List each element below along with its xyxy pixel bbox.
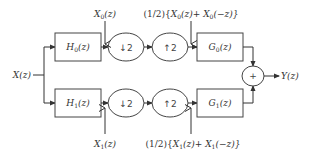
top-downsampler-label: ↓2 (119, 43, 132, 53)
g0-label: G0(z) (209, 42, 232, 53)
top-upsampler-label: ↑2 (163, 43, 176, 53)
x0-folded-label: (1/2){X0(z)+ X0(−z)} (144, 9, 239, 20)
x1-label: X1(z) (93, 139, 117, 150)
filter-bank-diagram: + ↓2 ↑2 ↓2 ↑2 H0(z) G0(z) H1(z) G1(z) X(… (0, 0, 316, 162)
output-label: Y(z) (281, 71, 299, 81)
input-label: X(z) (12, 70, 32, 80)
input-wires (33, 47, 55, 103)
h1-label: H1(z) (65, 98, 90, 109)
x1-folded-label: (1/2){X1(z)+ X1(−z)} (146, 139, 241, 150)
summer-label: + (249, 71, 257, 81)
bottom-upsampler-label: ↑2 (163, 99, 176, 109)
g1-label: G1(z) (209, 98, 232, 109)
h0-label: H0(z) (65, 42, 90, 53)
bottom-branch (55, 86, 253, 134)
x0-label: X0(z) (93, 9, 117, 20)
bottom-downsampler-label: ↓2 (119, 99, 132, 109)
